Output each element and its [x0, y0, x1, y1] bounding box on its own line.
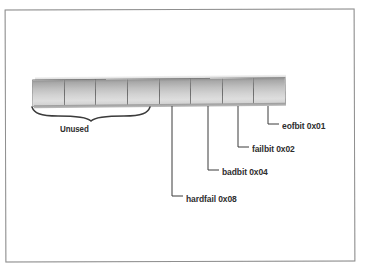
bit-cell [159, 79, 191, 105]
leader-line-hardfail [168, 106, 184, 202]
bitfield-bar [33, 78, 285, 106]
unused-brace-icon [30, 106, 152, 122]
leader-line-badbit [204, 106, 220, 176]
bit-cell [223, 78, 255, 104]
bit-cell [33, 80, 65, 106]
bit-cell [96, 79, 128, 105]
bit-cell [254, 78, 285, 104]
unused-label: Unused [60, 124, 89, 134]
leader-line-failbit [234, 106, 250, 152]
leader-line-eofbit [264, 106, 280, 130]
bit-cell [128, 79, 160, 105]
figure-canvas: Unused hardfail 0x08 badbit 0x04 failbit… [0, 0, 366, 275]
bit-cell [65, 80, 97, 106]
bit-cell [191, 78, 223, 104]
callout-label-badbit: badbit 0x04 [222, 166, 268, 177]
callout-label-eofbit: eofbit 0x01 [282, 120, 325, 131]
callout-label-hardfail: hardfail 0x08 [186, 193, 237, 204]
callout-label-failbit: failbit 0x02 [252, 143, 295, 154]
